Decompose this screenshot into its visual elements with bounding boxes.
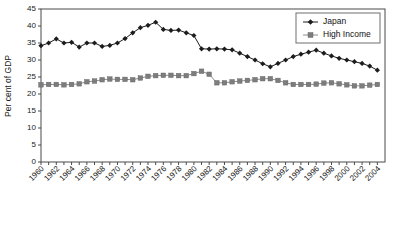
data-point-high-income: [367, 83, 372, 88]
data-point-high-income: [215, 80, 220, 85]
data-point-high-income: [230, 79, 235, 84]
data-point-high-income: [123, 77, 128, 82]
legend-label-high-income: High Income: [323, 29, 371, 39]
caption-strip: [0, 223, 408, 232]
y-tick-label: 30: [27, 55, 36, 64]
x-tick-label: 2002: [348, 164, 367, 183]
data-point-high-income: [176, 73, 181, 78]
data-point-high-income: [115, 77, 120, 82]
data-point-high-income: [54, 82, 59, 87]
x-tick-label: 1976: [149, 164, 168, 183]
data-point-high-income: [85, 79, 90, 84]
data-point-high-income: [39, 83, 44, 88]
data-point-high-income: [192, 71, 197, 76]
data-point-high-income: [222, 80, 227, 85]
y-tick-label: 5: [32, 140, 37, 149]
y-tick-label: 35: [27, 38, 36, 47]
x-tick-label: 1964: [58, 164, 77, 183]
x-tick-label: 1972: [119, 164, 138, 183]
x-tick-label: 1970: [103, 164, 122, 183]
data-point-high-income: [207, 72, 212, 77]
y-tick-label: 45: [27, 4, 36, 13]
data-point-high-income: [260, 76, 265, 81]
data-point-high-income: [169, 73, 174, 78]
data-point-high-income: [322, 81, 327, 86]
data-point-high-income: [237, 79, 242, 84]
data-point-high-income: [46, 82, 51, 87]
data-point-high-income: [108, 77, 113, 82]
y-axis-title: Per cent of GDP: [3, 55, 13, 117]
x-tick-label: 1978: [165, 164, 184, 183]
y-tick-label: 40: [27, 21, 36, 30]
data-point-high-income: [184, 73, 189, 78]
data-point-high-income: [306, 82, 311, 87]
x-tick-label: 2004: [363, 164, 382, 183]
data-point-high-income: [138, 76, 143, 81]
data-point-high-income: [283, 80, 288, 85]
y-tick-label: 20: [27, 89, 36, 98]
data-point-high-income: [352, 84, 357, 89]
x-tick-label: 1974: [134, 164, 153, 183]
data-point-high-income: [329, 80, 334, 85]
data-point-high-income: [77, 82, 82, 87]
data-point-high-income: [314, 82, 319, 87]
data-point-high-income: [199, 69, 204, 74]
data-point-high-income: [69, 82, 74, 87]
data-point-high-income: [291, 82, 296, 87]
data-point-high-income: [344, 83, 349, 88]
x-tick-label: 1988: [241, 164, 260, 183]
investment-gdp-line-chart: 051015202530354045 196019621964196619681…: [0, 0, 408, 232]
chart-legend: JapanHigh Income: [296, 13, 380, 43]
data-point-high-income: [153, 73, 158, 78]
data-point-high-income: [299, 82, 304, 87]
x-tick-label: 2000: [333, 164, 352, 183]
data-point-high-income: [268, 76, 273, 81]
y-tick-label: 15: [27, 106, 36, 115]
data-point-high-income: [253, 77, 258, 82]
legend-label-japan: Japan: [323, 16, 346, 26]
x-tick-label: 1968: [88, 164, 107, 183]
x-tick-label: 1994: [287, 164, 306, 183]
x-tick-label: 1996: [302, 164, 321, 183]
data-point-high-income: [276, 78, 281, 83]
data-point-high-income: [337, 82, 342, 87]
data-point-high-income: [100, 77, 105, 82]
data-point-high-income: [62, 83, 67, 88]
data-point-high-income: [360, 84, 365, 89]
data-point-high-income: [161, 73, 166, 78]
x-tick-label: 1962: [42, 164, 61, 183]
x-tick-label: 1998: [317, 164, 336, 183]
legend-marker-high-income: [308, 33, 313, 38]
x-axis-ticks: 1960196219641966196819701972197419761978…: [27, 162, 383, 183]
data-point-high-income: [375, 82, 380, 87]
data-point-high-income: [130, 77, 135, 82]
x-tick-label: 1992: [272, 164, 291, 183]
data-point-high-income: [92, 79, 97, 84]
x-tick-label: 1986: [226, 164, 245, 183]
x-tick-label: 1966: [73, 164, 92, 183]
x-tick-label: 1960: [27, 164, 46, 183]
x-tick-label: 1980: [180, 164, 199, 183]
y-tick-label: 25: [27, 72, 36, 81]
data-point-high-income: [245, 78, 250, 83]
x-tick-label: 1984: [210, 164, 229, 183]
data-point-high-income: [146, 74, 151, 79]
chart-figure: 051015202530354045 196019621964196619681…: [0, 0, 408, 232]
y-tick-label: 0: [32, 157, 37, 166]
y-tick-label: 10: [27, 123, 36, 132]
x-tick-label: 1990: [256, 164, 275, 183]
x-tick-label: 1982: [195, 164, 214, 183]
